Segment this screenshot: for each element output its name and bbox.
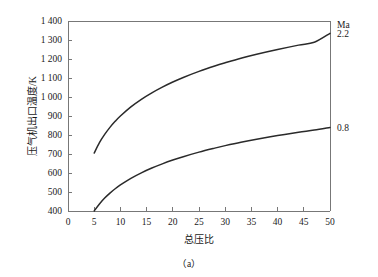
x-tick-label-5: 5 — [92, 217, 97, 227]
y-tick-label-1200: 1 200 — [41, 54, 63, 64]
x-tick-label-15: 15 — [142, 217, 152, 227]
x-tick-label-20: 20 — [168, 217, 178, 227]
series-label-ma-2.2: 2.2 — [337, 29, 349, 39]
x-axis-ticks — [68, 207, 330, 211]
y-tick-label-400: 400 — [48, 206, 63, 216]
y-tick-label-600: 600 — [48, 168, 63, 178]
y-tick-label-1300: 1 300 — [41, 35, 63, 45]
y-axis-title: 压气机出口温度/K — [26, 75, 38, 156]
y-tick-label-800: 800 — [48, 130, 63, 140]
series-end-labels: 2.20.8 — [337, 29, 349, 133]
x-tick-label-10: 10 — [116, 217, 126, 227]
series-label-ma-0.8: 0.8 — [337, 123, 349, 133]
y-tick-label-700: 700 — [48, 149, 63, 159]
x-axis-tick-labels: 05101520253035404550 — [66, 217, 335, 227]
figure-container: 4005006007008009001 0001 1001 2001 3001 … — [0, 0, 378, 277]
x-axis-title: 总压比 — [184, 233, 214, 245]
y-tick-label-1100: 1 100 — [41, 73, 63, 83]
x-tick-label-45: 45 — [299, 217, 309, 227]
x-tick-label-25: 25 — [194, 217, 204, 227]
y-tick-label-500: 500 — [48, 187, 63, 197]
legend-header-label: Ma — [337, 20, 350, 30]
axes-frame — [68, 21, 330, 211]
y-axis-ticks — [68, 21, 72, 211]
y-tick-label-900: 900 — [48, 111, 63, 121]
x-tick-label-35: 35 — [247, 217, 257, 227]
y-tick-label-1400: 1 400 — [41, 16, 63, 26]
data-series-group — [94, 33, 330, 211]
x-tick-label-40: 40 — [273, 217, 283, 227]
series-curve-ma-0.8 — [94, 127, 330, 211]
line-chart: 4005006007008009001 0001 1001 2001 3001 … — [0, 0, 378, 277]
x-tick-label-50: 50 — [325, 217, 335, 227]
figure-caption: （a） — [177, 258, 201, 269]
x-tick-label-30: 30 — [220, 217, 230, 227]
series-curve-ma-2.2 — [94, 33, 330, 153]
x-tick-label-0: 0 — [66, 217, 71, 227]
y-tick-label-1000: 1 000 — [41, 92, 63, 102]
y-axis-tick-labels: 4005006007008009001 0001 1001 2001 3001 … — [41, 16, 63, 216]
